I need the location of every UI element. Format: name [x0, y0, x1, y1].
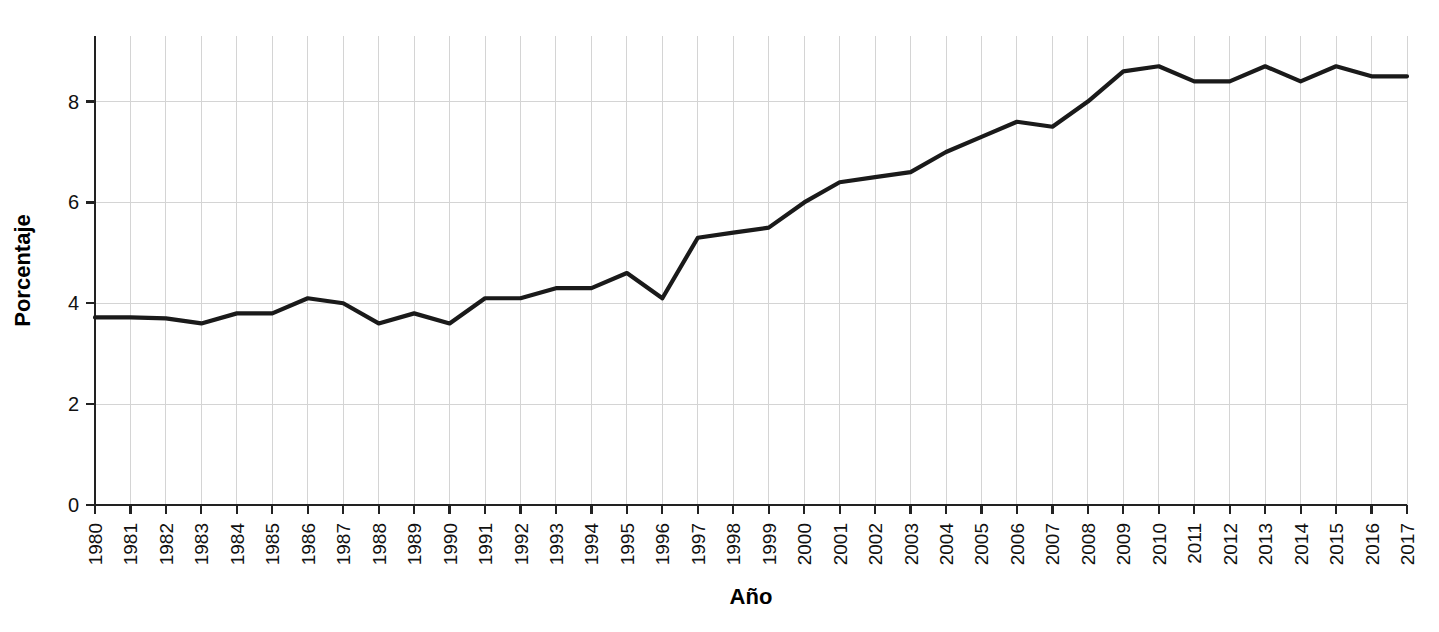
x-tick-label: 2016 — [1362, 523, 1383, 565]
x-tick-label: 2012 — [1220, 523, 1241, 565]
y-tick-labels: 02468 — [68, 91, 79, 516]
x-tick-label: 2014 — [1291, 523, 1312, 566]
x-tick-label: 2004 — [936, 523, 957, 566]
x-tick-label: 1980 — [85, 523, 106, 565]
y-tick-marks — [86, 102, 95, 505]
x-tick-label: 2000 — [794, 523, 815, 565]
x-gridlines — [95, 36, 1407, 505]
x-tick-label: 2007 — [1042, 523, 1063, 565]
x-tick-label: 1992 — [511, 523, 532, 565]
x-tick-label: 1995 — [617, 523, 638, 565]
x-tick-label: 1994 — [581, 523, 602, 566]
x-tick-label: 2002 — [865, 523, 886, 565]
x-tick-label: 1987 — [333, 523, 354, 565]
x-tick-label: 1997 — [688, 523, 709, 565]
x-tick-label: 1986 — [298, 523, 319, 565]
chart-container: 02468 1980198119821983198419851986198719… — [0, 0, 1439, 632]
x-tick-label: 2008 — [1078, 523, 1099, 565]
x-tick-label: 1981 — [120, 523, 141, 565]
x-tick-label: 1996 — [652, 523, 673, 565]
x-tick-label: 2001 — [830, 523, 851, 565]
x-tick-label: 1984 — [227, 523, 248, 566]
line-chart: 02468 1980198119821983198419851986198719… — [0, 0, 1439, 632]
y-tick-label: 6 — [68, 191, 79, 213]
x-tick-label: 2009 — [1113, 523, 1134, 565]
x-tick-labels: 1980198119821983198419851986198719881989… — [85, 523, 1418, 566]
x-tick-label: 2017 — [1397, 523, 1418, 565]
x-tick-label: 1988 — [369, 523, 390, 565]
x-tick-label: 1985 — [262, 523, 283, 565]
x-tick-marks — [95, 505, 1407, 514]
x-axis: 1980198119821983198419851986198719881989… — [85, 505, 1418, 565]
x-tick-label: 2006 — [1007, 523, 1028, 565]
y-axis-title: Porcentaje — [10, 214, 35, 327]
x-tick-label: 1999 — [759, 523, 780, 565]
x-axis-title: Año — [730, 584, 773, 609]
x-tick-label: 2005 — [971, 523, 992, 565]
x-tick-label: 1993 — [546, 523, 567, 565]
x-tick-label: 1998 — [723, 523, 744, 565]
x-tick-label: 2010 — [1149, 523, 1170, 565]
x-tick-label: 2013 — [1255, 523, 1276, 565]
x-tick-label: 2003 — [901, 523, 922, 565]
x-tick-label: 2011 — [1184, 523, 1205, 564]
x-tick-label: 1991 — [475, 523, 496, 565]
y-tick-label: 0 — [68, 494, 79, 516]
y-tick-label: 2 — [68, 393, 79, 415]
y-axis: 02468 — [68, 36, 95, 516]
x-tick-label: 1983 — [191, 523, 212, 565]
x-tick-label: 1982 — [156, 523, 177, 565]
x-tick-label: 1989 — [404, 523, 425, 565]
x-tick-label: 2015 — [1326, 523, 1347, 565]
x-tick-label: 1990 — [440, 523, 461, 565]
y-tick-label: 4 — [68, 292, 79, 314]
data-series-line — [95, 66, 1407, 323]
y-tick-label: 8 — [68, 91, 79, 113]
